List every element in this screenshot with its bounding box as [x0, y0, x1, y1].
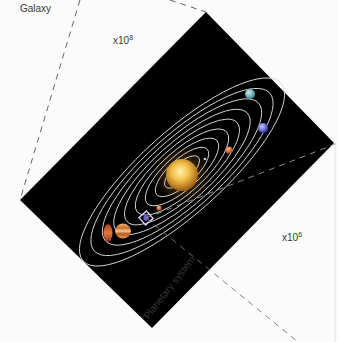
scale-factor-system: x106 — [282, 231, 302, 243]
projection-line-galaxy-top — [170, 0, 206, 12]
orange-planet — [225, 146, 232, 153]
scale-factor-galaxy: x108 — [113, 34, 133, 46]
small-inner-planet — [156, 205, 161, 210]
red-gas-giant — [104, 224, 113, 242]
cyan-planet — [245, 89, 255, 99]
scale-factor-system-base: x10 — [282, 232, 298, 243]
scale-factor-system-exponent: 6 — [298, 231, 302, 238]
galaxy-label: Galaxy — [20, 3, 51, 14]
tiny-inner-planet — [204, 158, 207, 161]
figure-canvas: Galaxy x108 x106 Planetary system — [0, 0, 338, 342]
blue-planet — [258, 123, 268, 133]
scale-factor-galaxy-base: x10 — [113, 35, 129, 46]
scale-factor-galaxy-exponent: 8 — [129, 34, 133, 41]
sun — [166, 159, 198, 191]
banded-gas-giant — [115, 224, 131, 239]
